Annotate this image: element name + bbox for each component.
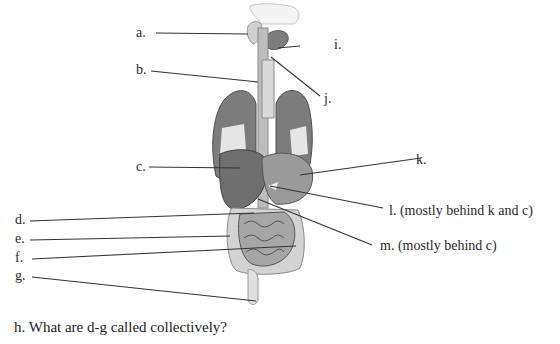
label-d: d. (15, 212, 26, 228)
salivary-gland-shape (250, 4, 299, 24)
label-l: l. (mostly behind k and c) (389, 203, 533, 219)
label-f: f. (15, 250, 23, 266)
anatomy-illustration (0, 0, 560, 344)
label-j: j. (324, 91, 331, 107)
rectum-shape (248, 269, 258, 304)
label-e: e. (15, 231, 25, 247)
label-i: i. (334, 37, 341, 53)
label-c: c. (136, 159, 146, 175)
tongue-shape (268, 31, 288, 50)
label-m: m. (mostly behind c) (380, 238, 497, 254)
label-b: b. (136, 62, 147, 78)
stomach-shape (262, 153, 313, 204)
trachea-shape (262, 60, 274, 118)
label-g: g. (15, 268, 26, 284)
label-k: k. (416, 152, 427, 168)
label-a: a. (136, 25, 146, 41)
question-h: h. What are d-g called collectively? (14, 319, 227, 336)
